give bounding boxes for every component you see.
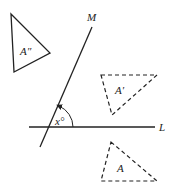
angle-label: x° (54, 115, 65, 127)
triangle-a-prime-label: A′ (114, 84, 125, 96)
triangle-a-label: A (116, 162, 124, 174)
triangle-a-double-prime-label: A″ (19, 45, 32, 57)
triangle-a-prime (101, 75, 157, 115)
reflection-diagram: L M x° A″ A′ A (0, 0, 171, 188)
line-m (40, 27, 92, 147)
line-l-label: L (158, 121, 165, 133)
triangle-a-double-prime (11, 14, 50, 72)
line-m-label: M (86, 11, 97, 23)
triangle-a (101, 142, 157, 181)
